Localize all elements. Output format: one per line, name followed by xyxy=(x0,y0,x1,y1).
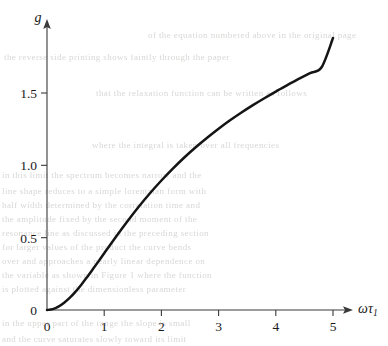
y-tick-label: 0.5 xyxy=(20,231,37,246)
y-tick-labels: 00.51.01.5 xyxy=(20,86,37,318)
x-tick-labels: 012345 xyxy=(44,319,337,334)
y-tick-label: 1.5 xyxy=(20,86,37,101)
x-axis-label: ωτ1 xyxy=(358,301,378,318)
x-tick-label: 2 xyxy=(158,319,165,334)
plot-svg: 012345 00.51.01.5 g ωτ1 xyxy=(0,0,388,346)
y-axis xyxy=(43,19,51,310)
data-curve xyxy=(47,38,333,310)
x-axis xyxy=(47,306,353,314)
x-tick-label: 3 xyxy=(215,319,222,334)
figure-container: the reverse side printing shows faintly … xyxy=(0,0,388,346)
x-tick-marks xyxy=(104,310,333,316)
x-tick-label: 5 xyxy=(330,319,337,334)
x-tick-label: 0 xyxy=(44,319,51,334)
y-tick-label: 1.0 xyxy=(20,158,37,173)
y-tick-marks xyxy=(41,93,47,238)
x-tick-label: 4 xyxy=(272,319,279,334)
y-tick-label: 0 xyxy=(30,303,37,318)
x-tick-label: 1 xyxy=(101,319,108,334)
y-axis-label: g xyxy=(35,10,42,25)
